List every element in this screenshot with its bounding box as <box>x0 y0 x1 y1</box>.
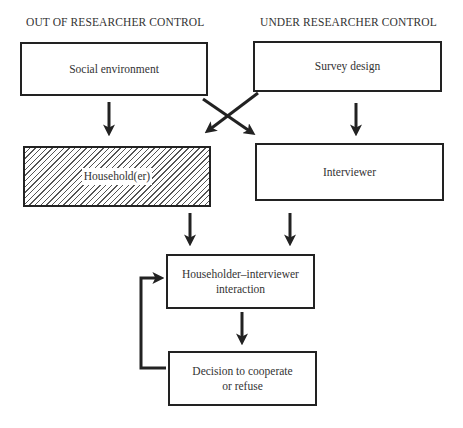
arrows-layer <box>0 0 463 428</box>
arrow-feedback-decision-to-interaction <box>141 278 166 368</box>
arrow-survey-to-householder <box>209 93 258 130</box>
